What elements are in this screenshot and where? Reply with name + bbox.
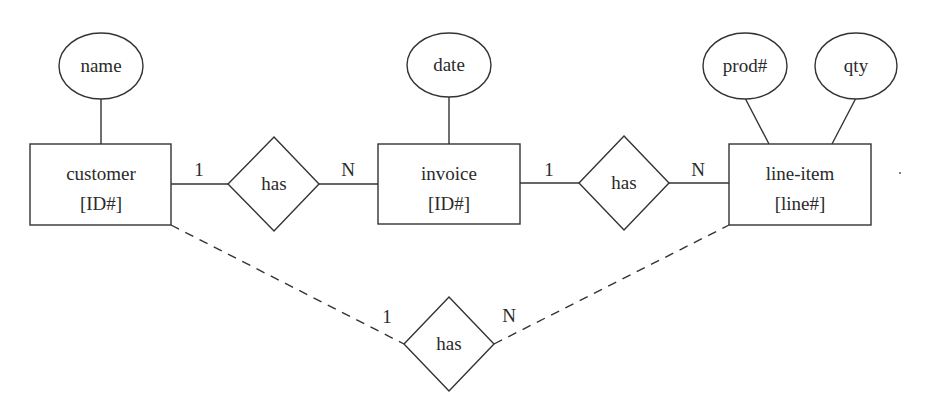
- relationship-has-invoice-lineitem: has: [579, 136, 669, 230]
- cardinality-has2-lineitem: N: [691, 159, 705, 180]
- entity-line-item-key: [line#]: [775, 193, 826, 214]
- dashed-connector-customer-has3: [171, 225, 404, 344]
- dashed-connector-has3-lineitem: [494, 225, 729, 344]
- entity-invoice: invoice [ID#]: [378, 144, 520, 224]
- entity-line-item-label: line-item: [766, 163, 835, 184]
- cardinality-invoice-has2: 1: [544, 159, 554, 180]
- relationship-has3-label: has: [436, 333, 461, 354]
- er-diagram: name date prod# qty customer [ID#] invoi…: [0, 0, 927, 403]
- attribute-date-label: date: [433, 54, 465, 75]
- entity-customer-label: customer: [66, 163, 136, 184]
- entity-line-item: line-item [line#]: [729, 144, 871, 225]
- attribute-date: date: [407, 33, 491, 97]
- attribute-qty: qty: [815, 33, 897, 99]
- cardinality-has1-invoice: N: [341, 159, 355, 180]
- relationship-has1-label: has: [261, 173, 286, 194]
- attribute-prod: prod#: [703, 33, 787, 99]
- relationship-has-customer-invoice: has: [228, 137, 319, 231]
- cardinality-customer-has1: 1: [194, 159, 204, 180]
- entity-invoice-key: [ID#]: [428, 193, 470, 214]
- connector-qty-lineitem: [832, 98, 856, 144]
- connector-prod-lineitem: [745, 98, 769, 144]
- attribute-name-label: name: [80, 55, 121, 76]
- relationship-has-customer-lineitem: has: [404, 297, 494, 391]
- stray-dot: [899, 172, 901, 174]
- attribute-name: name: [59, 33, 143, 99]
- cardinality-customer-has3: 1: [382, 306, 392, 327]
- relationship-has2-label: has: [611, 172, 636, 193]
- entity-invoice-label: invoice: [421, 163, 477, 184]
- attribute-prod-label: prod#: [723, 55, 768, 76]
- cardinality-has3-lineitem: N: [502, 305, 516, 326]
- entity-customer-key: [ID#]: [80, 193, 122, 214]
- entity-customer: customer [ID#]: [30, 144, 171, 225]
- attribute-qty-label: qty: [844, 55, 869, 76]
